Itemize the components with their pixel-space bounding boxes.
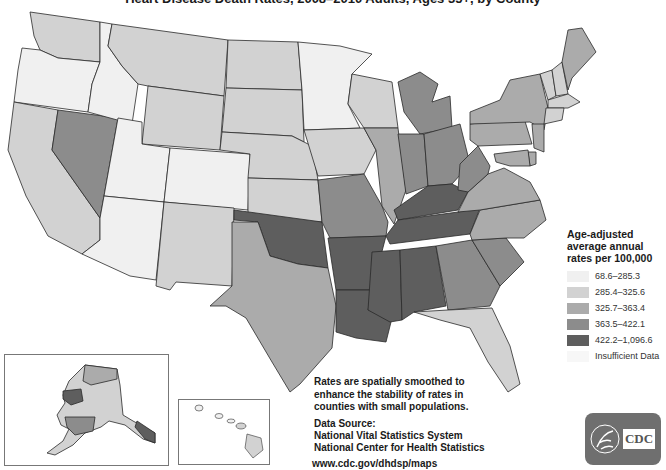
legend-swatch (567, 303, 589, 314)
state-MD (494, 150, 530, 166)
legend-title: Age-adjusted average annual rates per 10… (567, 228, 666, 264)
state-MO (318, 174, 388, 238)
legend-swatch (567, 351, 589, 362)
state-MS (368, 250, 402, 322)
cdc-logo-text: CDC (623, 429, 655, 449)
legend-item: Insufficient Data (567, 348, 666, 364)
hawaii-island-molokai (227, 419, 235, 423)
legend-item: 285.4–325.6 (567, 284, 666, 300)
legend-swatch (567, 319, 589, 330)
legend-item: 422.2–1,096.6 (567, 332, 666, 348)
legend-swatch (567, 287, 589, 298)
legend-label: 285.4–325.6 (595, 287, 645, 297)
cdc-logo: CDC (585, 413, 661, 465)
legend-swatch (567, 335, 589, 346)
legend-label: 68.6–285.3 (595, 271, 640, 281)
alaska-inset (4, 354, 169, 466)
legend-label: Insufficient Data (595, 351, 659, 361)
data-source-heading: Data Source: (314, 418, 485, 430)
legend-title-line: rates per 100,000 (567, 252, 666, 264)
legend-swatch (567, 271, 589, 282)
legend: Age-adjusted average annual rates per 10… (567, 228, 666, 364)
state-CO (164, 148, 250, 210)
smoothing-note: Rates are spatially smoothed to enhance … (314, 376, 504, 414)
legend-title-line: Age-adjusted (567, 228, 666, 240)
legend-label: 422.2–1,096.6 (595, 335, 653, 345)
data-source: Data Source: National Vital Statistics S… (314, 418, 485, 454)
legend-item: 363.5–422.1 (567, 316, 666, 332)
state-ME (562, 28, 596, 90)
hawaii-island-big (245, 434, 263, 458)
state-ND (226, 40, 302, 90)
state-WY (142, 86, 224, 150)
hawaii-island-maui (236, 423, 246, 429)
legend-title-line: average annual (567, 240, 666, 252)
hawaii-island-kauai (195, 405, 203, 411)
data-source-line: National Vital Statistics System (314, 430, 485, 442)
data-source-line: National Center for Health Statistics (314, 442, 485, 454)
state-NJ (532, 124, 544, 152)
legend-item: 68.6–285.3 (567, 268, 666, 284)
state-NY (470, 74, 548, 130)
legend-item: 325.7–363.4 (567, 300, 666, 316)
hawaii-island-oahu (215, 414, 223, 419)
legend-label: 325.7–363.4 (595, 303, 645, 313)
hawaii-inset (178, 399, 270, 465)
legend-label: 363.5–422.1 (595, 319, 645, 329)
state-CT (544, 108, 564, 124)
source-url-link[interactable]: www.cdc.gov/dhdsp/maps (312, 458, 437, 469)
state-NM (156, 202, 234, 290)
state-MI (398, 72, 452, 134)
hhs-eagle-icon (585, 413, 623, 465)
